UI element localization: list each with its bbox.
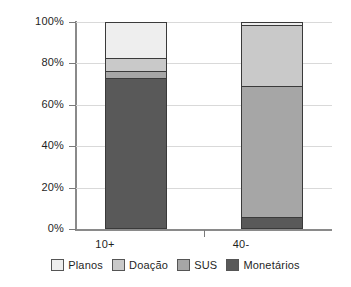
y-label-80: 80% [4,56,64,68]
legend-label-planos: Planos [68,259,103,271]
y-label-60: 60% [4,98,64,110]
segment-sus-40minus[interactable] [242,87,302,218]
legend-item-planos[interactable]: Planos [51,259,103,271]
segment-doacao-10plus[interactable] [106,59,166,72]
y-tick-60 [69,105,76,106]
segment-planos-10plus[interactable] [106,23,166,59]
segment-sus-10plus[interactable] [106,72,166,79]
segment-monetarios-40minus[interactable] [242,218,302,228]
segment-monetarios-10plus[interactable] [106,79,166,228]
y-label-40: 40% [4,139,64,151]
bar-category-40minus[interactable] [241,22,303,229]
y-label-0: 0% [4,222,64,234]
y-tick-40 [69,146,76,147]
legend-swatch-planos [51,259,64,271]
chart-legend: Planos Doação SUS Monetários [0,259,351,271]
segment-doacao-40minus[interactable] [242,26,302,86]
x-axis-label-10plus: 10+ [60,238,150,250]
y-tick-100 [69,22,76,23]
x-axis-label-40minus: 40- [196,238,286,250]
y-tick-20 [69,188,76,189]
legend-swatch-sus [177,259,190,271]
y-tick-0 [69,229,76,230]
legend-label-sus: SUS [194,259,217,271]
y-tick-80 [69,63,76,64]
stacked-bar-chart: 0%20%40%60%80%100% 10+ 40- Planos Doação [0,0,351,287]
legend-item-monetarios[interactable]: Monetários [226,259,299,271]
y-label-20: 20% [4,181,64,193]
legend-item-doacao[interactable]: Doação [112,259,168,271]
legend-swatch-doacao [112,259,125,271]
y-label-100: 100% [4,15,64,27]
legend-item-sus[interactable]: SUS [177,259,217,271]
x-axis-tick [204,230,205,237]
legend-label-monetarios: Monetários [243,259,299,271]
legend-label-doacao: Doação [129,259,168,271]
legend-swatch-monetarios [226,259,239,271]
bar-category-10plus[interactable] [105,22,167,229]
plot-area [76,22,332,229]
